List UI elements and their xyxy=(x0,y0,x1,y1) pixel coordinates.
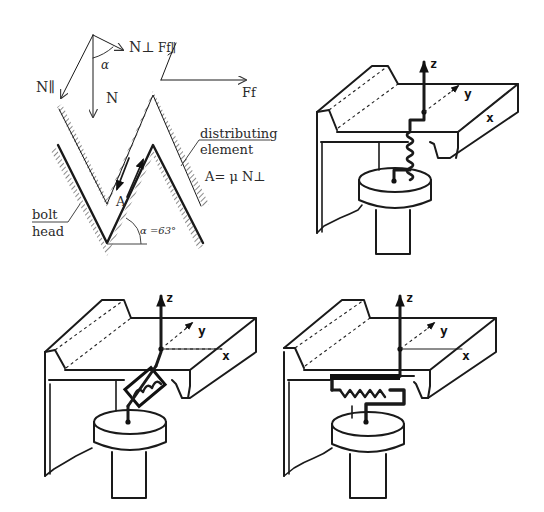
axis-label-z: z xyxy=(406,291,413,305)
model-vertical-spring: z y x xyxy=(317,57,518,254)
label-bolt: bolt xyxy=(32,207,58,222)
plate-front-top xyxy=(337,132,458,158)
spring-element-vertical xyxy=(391,62,458,184)
ridge-hidden-2 xyxy=(305,318,370,366)
label-element: element xyxy=(200,142,254,157)
bracket-structure xyxy=(317,66,518,233)
axis-label-z: z xyxy=(430,57,437,71)
ridge-front xyxy=(45,350,65,368)
bolt-shank xyxy=(350,454,386,498)
plate-outline xyxy=(370,318,496,398)
axis-label-y: y xyxy=(198,323,206,338)
axis-label-x: x xyxy=(486,110,494,125)
bolt-leader-diag xyxy=(68,204,80,222)
y-axis-dashed xyxy=(424,88,456,112)
y-axis-dashed xyxy=(161,326,189,349)
ridge-hidden-1 xyxy=(329,66,388,110)
ridge-top xyxy=(284,300,370,348)
label-distributing: distributing xyxy=(200,126,278,141)
n-parallel-arrow xyxy=(61,35,93,98)
bolt-head-top xyxy=(332,412,404,436)
ridge-top xyxy=(317,66,400,112)
ridge-hidden-2 xyxy=(66,318,131,368)
alpha-arc xyxy=(93,47,113,58)
model-horizontal-spring: z y x xyxy=(284,291,496,498)
spring-element-inclined xyxy=(125,296,222,425)
label-n-perp: N⊥ xyxy=(129,39,154,55)
label-n-parallel: N∥ xyxy=(36,79,55,95)
figure-canvas: N⊥ Ff∥ α N∥ N Ff A α =63° distributing e… xyxy=(0,0,544,512)
wall-torn-edge xyxy=(284,448,332,476)
angle-arc xyxy=(126,218,141,244)
label-f-f: Ff xyxy=(242,85,257,100)
bolt xyxy=(332,412,404,498)
bolt-shank xyxy=(376,210,410,254)
ridge-hidden-1 xyxy=(55,300,124,350)
ridge-front xyxy=(317,110,337,130)
y-axis-arrow xyxy=(452,86,458,91)
label-head: head xyxy=(32,224,64,239)
spring-bottom-link xyxy=(394,170,410,180)
spring-coil xyxy=(407,132,413,180)
y-axis-arrow xyxy=(428,323,434,328)
wall-torn-edge xyxy=(45,448,92,476)
axis-label-z: z xyxy=(166,291,173,305)
thread-force-diagram: N⊥ Ff∥ α N∥ N Ff A α =63° distributing e… xyxy=(32,35,278,256)
model-inclined-spring: z y x xyxy=(45,291,256,498)
y-axis-arrow xyxy=(186,323,192,328)
bolt-node xyxy=(363,419,368,424)
z-axis-rod xyxy=(410,62,424,130)
ridge-hidden-1 xyxy=(295,300,364,348)
axis-label-x: x xyxy=(462,348,470,363)
bolt-head-side xyxy=(359,180,431,208)
label-f-f-parallel: Ff∥ xyxy=(158,41,176,55)
z-axis-rod xyxy=(156,296,161,366)
spring-coil xyxy=(340,390,385,397)
axis-label-x: x xyxy=(222,348,230,363)
bolt-node xyxy=(391,178,396,183)
bolt-node xyxy=(125,419,130,424)
ridge-front xyxy=(284,348,304,368)
bolt-head-side xyxy=(332,424,404,452)
ridge-hidden-2 xyxy=(338,84,398,128)
label-a-point: A xyxy=(115,194,126,209)
axis-label-y: y xyxy=(464,86,472,101)
lower-housing xyxy=(366,390,404,421)
ridge-top xyxy=(45,300,131,352)
wall-torn-edge xyxy=(317,205,362,233)
bolt-shank xyxy=(112,452,146,498)
bolt-head-side xyxy=(94,422,166,450)
y-axis-dashed xyxy=(400,326,431,349)
f-f-parallel-arrow xyxy=(161,52,172,80)
n-perp-arrow xyxy=(93,35,123,50)
label-alpha: α xyxy=(101,58,109,72)
label-angle: α =63° xyxy=(140,225,176,236)
label-friction-formula: A= μ N⊥ xyxy=(204,169,266,184)
axis-label-y: y xyxy=(440,323,448,338)
upper-housing-fill xyxy=(330,374,400,380)
label-n: N xyxy=(106,90,118,106)
